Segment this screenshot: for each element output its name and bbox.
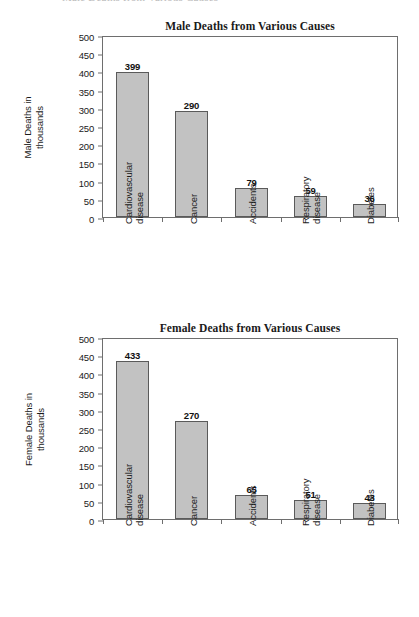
- y-axis-tick-label: 50: [70, 497, 94, 508]
- x-axis-category-label-line: Cancer: [188, 496, 199, 526]
- y-axis-tick-mark: [98, 37, 103, 38]
- y-axis-tick-mark: [98, 128, 103, 129]
- x-axis-tick-mark: [398, 217, 399, 222]
- x-axis-tick-mark: [340, 519, 341, 524]
- x-axis-tick-mark: [162, 217, 163, 222]
- x-axis-category-label-line: Accidents: [247, 184, 258, 224]
- chart-title: Female Deaths from Various Causes: [102, 322, 398, 334]
- x-axis-tick-mark: [281, 519, 282, 524]
- x-axis-category-label-line: Accidents: [247, 486, 258, 526]
- y-axis-tick: 0: [70, 214, 103, 225]
- y-axis-tick: 200: [70, 443, 103, 454]
- y-axis-tick-mark: [98, 73, 103, 74]
- y-axis-tick-mark: [98, 393, 103, 394]
- y-axis-tick-label: 50: [70, 195, 94, 206]
- y-axis-tick: 50: [70, 497, 103, 508]
- y-axis-label-line: Male Deaths in: [23, 96, 35, 158]
- y-axis-tick-mark: [98, 502, 103, 503]
- x-axis-category-label-line: Diabetes: [365, 489, 376, 526]
- y-axis-tick-label: 350: [70, 388, 94, 399]
- y-axis-tick-mark: [98, 375, 103, 376]
- y-axis-tick-label: 100: [70, 177, 94, 188]
- bar-value-label: 399: [125, 61, 140, 72]
- y-axis-tick: 150: [70, 461, 103, 472]
- y-axis-tick: 350: [70, 388, 103, 399]
- y-axis-tick-label: 100: [70, 479, 94, 490]
- x-axis-category-label-text: Cardiovasculardisease: [123, 162, 145, 224]
- y-axis-tick: 100: [70, 479, 103, 490]
- bar-value-label: 290: [184, 100, 199, 111]
- x-axis-category-label-line: disease: [134, 162, 145, 224]
- x-axis-category-label-line: Respiratory: [300, 479, 311, 526]
- bar-value-label: 270: [184, 410, 199, 421]
- x-axis-tick-mark: [221, 217, 222, 222]
- y-axis-tick-mark: [98, 109, 103, 110]
- y-axis-tick-mark: [98, 484, 103, 485]
- x-axis-category-label-line: Cardiovascular: [123, 464, 134, 526]
- y-axis-tick: 200: [70, 141, 103, 152]
- x-axis-category-label-text: Respiratorydisease: [300, 479, 322, 526]
- y-axis-tick: 400: [70, 68, 103, 79]
- x-axis-category-label-text: Diabetes: [365, 187, 376, 224]
- y-axis-label: Female Deaths inthousands: [24, 338, 44, 520]
- y-axis-tick: 0: [70, 516, 103, 527]
- y-axis-tick: 250: [70, 425, 103, 436]
- y-axis-tick-mark: [98, 466, 103, 467]
- y-axis-tick-label: 400: [70, 370, 94, 381]
- y-axis-tick-mark: [98, 357, 103, 358]
- x-axis-category-label-text: Diabetes: [365, 489, 376, 526]
- y-axis-tick: 350: [70, 86, 103, 97]
- y-axis-tick-mark: [98, 55, 103, 56]
- y-axis-tick-label: 250: [70, 123, 94, 134]
- x-axis-tick-mark: [340, 217, 341, 222]
- y-axis-tick-label: 200: [70, 141, 94, 152]
- x-axis-category-label-text: Cancer: [188, 194, 199, 224]
- y-axis-label-text: Male Deaths inthousands: [23, 96, 46, 158]
- x-axis-category-label-line: disease: [134, 464, 145, 526]
- x-axis-category-label-text: Cardiovasculardisease: [123, 464, 145, 526]
- y-axis-tick: 400: [70, 370, 103, 381]
- y-axis-tick-label: 150: [70, 159, 94, 170]
- y-axis-tick-label: 0: [70, 214, 94, 225]
- x-axis-category-label-line: disease: [311, 479, 322, 526]
- x-axis-tick-mark: [103, 519, 104, 524]
- y-axis-tick-mark: [98, 182, 103, 183]
- y-axis-tick-label: 150: [70, 461, 94, 472]
- y-axis-tick-mark: [98, 448, 103, 449]
- x-axis-tick-mark: [162, 519, 163, 524]
- y-axis-label-line: thousands: [34, 96, 46, 158]
- x-axis-category-label-text: Cancer: [188, 496, 199, 526]
- y-axis-tick: 450: [70, 50, 103, 61]
- x-axis-category-label-line: Cancer: [188, 194, 199, 224]
- y-axis-label-line: thousands: [34, 393, 46, 466]
- y-axis-tick: 300: [70, 406, 103, 417]
- y-axis-tick-label: 300: [70, 406, 94, 417]
- y-axis-tick: 50: [70, 195, 103, 206]
- y-axis-tick-mark: [98, 200, 103, 201]
- y-axis-tick: 500: [70, 334, 103, 345]
- y-axis-tick-label: 350: [70, 86, 94, 97]
- y-axis-tick-mark: [98, 91, 103, 92]
- bar-value-label: 433: [125, 350, 140, 361]
- y-axis-tick-label: 300: [70, 104, 94, 115]
- x-axis-category-label-text: Accidents: [247, 486, 258, 526]
- x-axis-category-label-text: Respiratorydisease: [300, 177, 322, 224]
- cropped-header-text: Male Deaths from Various Causes: [0, 0, 419, 6]
- y-axis-tick-mark: [98, 411, 103, 412]
- y-axis-tick: 250: [70, 123, 103, 134]
- y-axis-tick: 300: [70, 104, 103, 115]
- x-axis-category-label-line: disease: [311, 177, 322, 224]
- x-axis-category-label-line: Respiratory: [300, 177, 311, 224]
- chart-male-deaths: Male Deaths from Various Causes Male Dea…: [0, 20, 419, 312]
- y-axis-tick-mark: [98, 430, 103, 431]
- y-axis-tick-mark: [98, 339, 103, 340]
- y-axis-tick: 150: [70, 159, 103, 170]
- chart-female-deaths: Female Deaths from Various Causes Female…: [0, 322, 419, 617]
- y-axis-tick-label: 450: [70, 50, 94, 61]
- y-axis-tick-label: 400: [70, 68, 94, 79]
- x-axis-category-label-line: Diabetes: [365, 187, 376, 224]
- y-axis-tick-label: 200: [70, 443, 94, 454]
- x-axis-tick-mark: [103, 217, 104, 222]
- y-axis-tick: 100: [70, 177, 103, 188]
- chart-title: Male Deaths from Various Causes: [102, 20, 398, 32]
